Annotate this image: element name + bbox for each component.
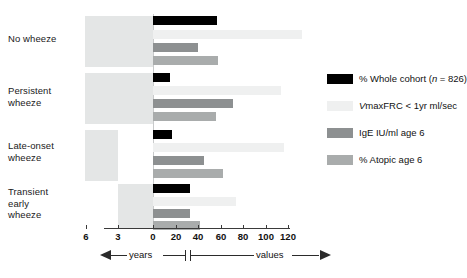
years-span-box	[85, 130, 118, 181]
legend-swatch-vmaxfrc	[327, 101, 353, 111]
bar-atopic	[153, 112, 216, 121]
x-axis-line	[104, 228, 290, 229]
axis-tick-label: 0	[141, 231, 165, 242]
axis-caption-years: years	[129, 249, 152, 260]
bar-vmaxfrc	[153, 143, 284, 152]
axis-tick-label: 80	[231, 231, 255, 242]
legend-item-atopic: % Atopic age 6	[327, 153, 461, 173]
caption-rule	[111, 255, 127, 256]
years-span-box	[85, 73, 153, 124]
legend-swatch-ige	[327, 128, 353, 138]
bar-ige	[153, 156, 204, 165]
legend-label-part: % Atopic age 6	[359, 154, 422, 165]
bar-whole-cohort	[153, 130, 172, 139]
years-span-box	[85, 16, 153, 67]
legend-label-vmaxfrc: VmaxFRC < 1yr ml/sec	[359, 99, 457, 112]
legend-label-part: % Whole cohort (	[359, 73, 432, 84]
legend-label-ige: IgE IU/ml age 6	[359, 126, 424, 139]
axis-tick-mark	[288, 225, 289, 229]
axis-tick-mark	[266, 225, 267, 229]
axis-tick-label: 3	[106, 231, 130, 242]
axis-tick-mark	[86, 225, 87, 229]
axis-tick-label: 20	[164, 231, 188, 242]
legend-label-whole-cohort: % Whole cohort (n = 826)	[359, 72, 467, 85]
legend: % Whole cohort (n = 826) VmaxFRC < 1yr m…	[327, 72, 461, 180]
bar-vmaxfrc	[153, 86, 281, 95]
axis-tick-mark	[221, 225, 222, 229]
axis-tick-label: 60	[209, 231, 233, 242]
axis-tick-mark	[118, 225, 119, 229]
legend-item-ige: IgE IU/ml age 6	[327, 126, 461, 146]
legend-label-part: IgE IU/ml age 6	[359, 127, 424, 138]
bar-ige	[153, 99, 233, 108]
axis-tick-mark	[198, 225, 199, 229]
axis-tick-label: 120	[276, 231, 300, 242]
axis-tick-mark	[243, 225, 244, 229]
bar-whole-cohort	[153, 184, 190, 193]
axis-tick-mark	[176, 225, 177, 229]
bar-vmaxfrc	[153, 197, 236, 206]
axis-tick-label: 40	[186, 231, 210, 242]
left-arrow-icon	[100, 250, 111, 260]
bar-ige	[153, 43, 198, 52]
caption-tick-left	[185, 250, 186, 261]
bar-ige	[153, 209, 190, 218]
bar-whole-cohort	[153, 73, 170, 82]
bar-atopic	[153, 169, 223, 178]
caption-rule	[191, 255, 254, 256]
legend-item-whole-cohort: % Whole cohort (n = 826)	[327, 72, 461, 92]
caption-rule	[292, 255, 319, 256]
legend-label-part: = 826)	[437, 73, 467, 84]
legend-swatch-atopic	[327, 155, 353, 165]
axis-tick-label: 6	[74, 231, 98, 242]
caption-rule	[163, 255, 185, 256]
axis-tick-mark	[153, 225, 154, 229]
years-span-box	[118, 184, 153, 228]
legend-item-vmaxfrc: VmaxFRC < 1yr ml/sec	[327, 99, 461, 119]
bar-atopic	[153, 56, 218, 65]
legend-label-atopic: % Atopic age 6	[359, 153, 422, 166]
axis-tick-label: 100	[254, 231, 278, 242]
bar-vmaxfrc	[153, 30, 302, 39]
legend-label-part: maxFRC < 1yr ml/sec	[365, 100, 457, 111]
bar-whole-cohort	[153, 16, 217, 25]
legend-swatch-whole-cohort	[327, 74, 353, 84]
right-arrow-icon	[320, 250, 331, 260]
axis-caption-row: years values	[100, 247, 300, 265]
axis-caption-values: values	[256, 249, 283, 260]
